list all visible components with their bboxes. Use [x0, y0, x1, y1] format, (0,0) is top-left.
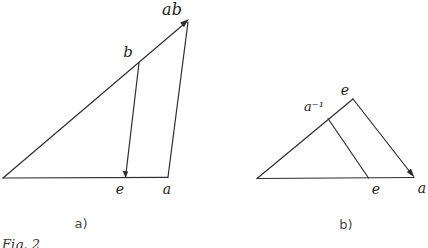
triangle-b — [257, 99, 414, 179]
panel-a-base-point-label: e — [116, 182, 124, 196]
triangle-b-base-line — [257, 178, 414, 179]
figure: ab b e a a) e a⁻¹ e a b) Fig. 2 — [0, 0, 428, 248]
panel-a-label: a) — [74, 217, 87, 230]
panel-b-edge-point-label: a⁻¹ — [304, 100, 324, 113]
triangle-b-right-edge-line — [353, 99, 410, 172]
panel-b-base-point-label: e — [372, 182, 380, 196]
figure-caption: Fig. 2 — [2, 238, 40, 248]
triangle-b-inner-line — [328, 119, 369, 179]
panel-b-base-right-label: a — [418, 181, 426, 195]
panel-a-base-right-label: a — [163, 182, 171, 196]
triangle-a-right-edge-line — [168, 22, 188, 177]
triangle-a-inner-line — [126, 63, 140, 178]
figure-canvas — [0, 0, 428, 248]
panel-a-apex-label: ab — [162, 2, 182, 18]
panel-b-apex-label: e — [341, 83, 349, 97]
panel-a-hypotenuse-point-label: b — [123, 45, 133, 60]
triangle-a — [3, 22, 188, 178]
panel-b-label: b) — [339, 218, 352, 231]
triangle-a-hypotenuse-line — [3, 24, 184, 178]
triangle-a-base-line — [3, 177, 168, 178]
